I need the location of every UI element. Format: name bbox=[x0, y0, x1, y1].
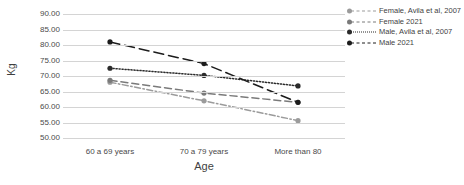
data-point bbox=[107, 39, 112, 44]
x-axis-tick-label: 60 a 69 years bbox=[65, 147, 155, 156]
x-axis-tick-label: 70 a 79 years bbox=[159, 147, 249, 156]
y-axis-tick-label: 65.00 bbox=[18, 88, 60, 96]
legend-marker-icon bbox=[347, 38, 377, 48]
gridline bbox=[63, 14, 345, 15]
data-point bbox=[295, 83, 300, 88]
x-axis-title: Age bbox=[63, 160, 345, 172]
y-axis-tick-label: 80.00 bbox=[18, 41, 60, 49]
gridline bbox=[63, 45, 345, 46]
y-axis-tick-label: 50.00 bbox=[18, 134, 60, 142]
legend-label: Male, Avila et al, 2007 bbox=[377, 27, 452, 37]
gridline bbox=[63, 92, 345, 93]
y-axis-tick-label: 85.00 bbox=[18, 26, 60, 34]
plot-area bbox=[63, 14, 345, 138]
gridline bbox=[63, 61, 345, 62]
legend-label: Male 2021 bbox=[377, 38, 414, 48]
legend-item[interactable]: Female 2021 bbox=[347, 17, 463, 28]
legend-marker-icon bbox=[347, 6, 377, 16]
data-point bbox=[201, 61, 206, 66]
legend-label: Female, Avila et al, 2007 bbox=[377, 6, 461, 16]
y-axis-tick-labels: 90.0085.0080.0075.0070.0065.0060.0055.00… bbox=[18, 0, 60, 185]
y-axis-tick-label: 90.00 bbox=[18, 10, 60, 18]
data-point bbox=[295, 100, 300, 105]
data-point bbox=[201, 98, 206, 103]
legend-item[interactable]: Male 2021 bbox=[347, 38, 463, 49]
x-axis-tick-label: More than 80 bbox=[253, 147, 343, 156]
y-axis-tick-label: 55.00 bbox=[18, 119, 60, 127]
y-axis-title: Kg bbox=[6, 61, 17, 79]
y-axis-tick-label: 75.00 bbox=[18, 57, 60, 65]
gridline bbox=[63, 107, 345, 108]
line-chart: Kg 90.0085.0080.0075.0070.0065.0060.0055… bbox=[0, 0, 464, 185]
y-axis-tick-label: 70.00 bbox=[18, 72, 60, 80]
legend-label: Female 2021 bbox=[377, 17, 423, 27]
data-point bbox=[107, 66, 112, 71]
gridline bbox=[63, 138, 345, 139]
gridline bbox=[63, 123, 345, 124]
legend-marker-icon bbox=[347, 27, 377, 37]
gridline bbox=[63, 76, 345, 77]
chart-legend: Female, Avila et al, 2007Female 2021Male… bbox=[347, 6, 463, 48]
legend-marker-icon bbox=[347, 17, 377, 27]
data-point bbox=[107, 78, 112, 83]
y-axis-tick-label: 60.00 bbox=[18, 103, 60, 111]
legend-item[interactable]: Female, Avila et al, 2007 bbox=[347, 6, 463, 17]
legend-item[interactable]: Male, Avila et al, 2007 bbox=[347, 27, 463, 38]
gridline bbox=[63, 30, 345, 31]
